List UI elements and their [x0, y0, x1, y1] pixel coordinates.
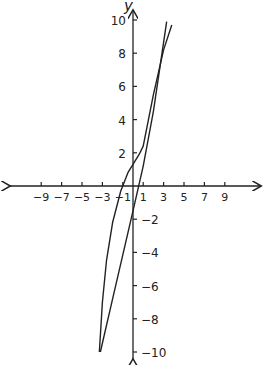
y-axis-label: y [123, 0, 134, 15]
coordinate-plane: y −9−7−5−3−113579 108642−2−4−6−8−10 [0, 0, 277, 365]
x-tick-label: −5 [74, 191, 90, 204]
y-tick-label: −6 [141, 280, 159, 294]
x-tick-label: 5 [181, 191, 188, 204]
x-tick-label: 1 [140, 191, 147, 204]
x-tick-label: −9 [33, 191, 49, 204]
y-tick-label: −8 [141, 313, 159, 327]
y-tick-label: 2 [118, 147, 126, 161]
series-group [99, 22, 171, 352]
x-tick-label: 3 [160, 191, 167, 204]
x-tick-label: 7 [201, 191, 208, 204]
x-tick-label: −3 [94, 191, 110, 204]
plot-curve [99, 25, 171, 352]
y-tick-label: 8 [118, 47, 126, 61]
x-tick-label: −7 [53, 191, 69, 204]
y-tick-label: −10 [141, 346, 166, 360]
y-tick-label: −4 [141, 246, 159, 260]
x-tick-label: 9 [221, 191, 228, 204]
y-tick-label: 10 [111, 14, 126, 28]
y-tick-label: −2 [141, 213, 159, 227]
y-tick-label: 4 [118, 114, 126, 128]
x-ticks: −9−7−5−3−113579 [33, 182, 228, 204]
x-tick-label: −1 [115, 191, 131, 204]
y-tick-label: 6 [118, 80, 126, 94]
